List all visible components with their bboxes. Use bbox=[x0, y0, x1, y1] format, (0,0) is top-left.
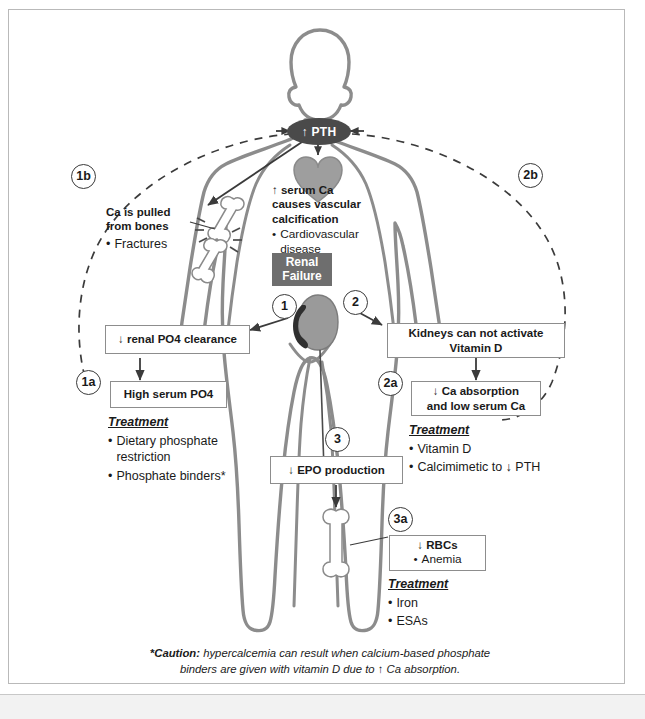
marker-1a: 1a bbox=[76, 370, 101, 395]
box-ca-absorption-line2: and low serum Ca bbox=[427, 399, 525, 413]
bullet-dot: • bbox=[108, 468, 112, 484]
renal-failure-line2: Failure bbox=[282, 270, 321, 284]
treatment-3a-label: Treatment bbox=[388, 577, 538, 592]
renal-failure-badge: Renal Failure bbox=[272, 253, 332, 286]
bullet-dot: • bbox=[388, 613, 392, 629]
heart-heading-line3: calcification bbox=[272, 212, 368, 226]
caption-line2: binders are given with vitamin D due to … bbox=[180, 663, 460, 675]
treatment-1a-item-1: Dietary phosphate restriction bbox=[116, 433, 253, 466]
bone-heading-line2: from bones bbox=[106, 219, 202, 233]
box-high-serum-po4: High serum PO4 bbox=[110, 381, 227, 408]
treatment-2a-item-2: Calcimimetic to ↓ PTH bbox=[417, 459, 540, 475]
marker-2: 2 bbox=[343, 290, 368, 315]
bullet-dot: • bbox=[413, 552, 417, 567]
diagram-graphics bbox=[0, 0, 645, 719]
caption-line1: hypercalcemia can result when calcium-ba… bbox=[203, 647, 490, 659]
box-ca-absorption: ↓ Ca absorption and low serum Ca bbox=[411, 381, 541, 416]
caption-strong: *Caution: bbox=[150, 647, 200, 659]
treatment-1a-label: Treatment bbox=[108, 415, 253, 430]
marker-2a: 2a bbox=[378, 371, 403, 396]
box-epo-production: ↓ EPO production bbox=[270, 456, 403, 484]
bone-text-block: Ca is pulled from bones • Fractures bbox=[106, 205, 202, 252]
box-ca-absorption-line1: ↓ Ca absorption bbox=[433, 384, 519, 398]
heart-heading-line1: ↑ serum Ca bbox=[272, 183, 368, 197]
marker-2b: 2b bbox=[518, 163, 543, 188]
marker-3: 3 bbox=[325, 427, 350, 452]
treatment-3a: Treatment • Iron • ESAs bbox=[388, 577, 538, 630]
treatment-1a: Treatment • Dietary phosphate restrictio… bbox=[108, 415, 253, 484]
bone-heading-line1: Ca is pulled bbox=[106, 205, 202, 219]
heart-text-block: ↑ serum Ca causes vascular calcification… bbox=[272, 183, 368, 258]
box-kidneys-vitamin-d-line2: Vitamin D bbox=[450, 341, 503, 355]
treatment-3a-items: • Iron • ESAs bbox=[388, 595, 538, 630]
bullet-dot: • bbox=[409, 459, 413, 475]
treatment-1a-items: • Dietary phosphate restriction • Phosph… bbox=[108, 433, 253, 484]
box-rbcs-line1: ↓ RBCs bbox=[417, 538, 457, 552]
box-kidneys-vitamin-d-line1: Kidneys can not activate bbox=[409, 326, 544, 340]
marker-1b: 1b bbox=[71, 164, 96, 189]
box-rbcs-bullet-1: Anemia bbox=[422, 552, 462, 567]
treatment-3a-item-2: ESAs bbox=[396, 613, 427, 629]
treatment-2a-label: Treatment bbox=[409, 423, 609, 438]
treatment-2a-item-1: Vitamin D bbox=[417, 441, 471, 457]
bullet-dot: • bbox=[388, 595, 392, 611]
box-rbcs-bullets: • Anemia bbox=[413, 552, 461, 567]
diagram-page: ↑ PTH 1b 2b Ca is pulled from bones • Fr… bbox=[0, 0, 645, 719]
bullet-dot: • bbox=[108, 433, 112, 466]
box-renal-po4-clearance: ↓ renal PO4 clearance bbox=[105, 325, 250, 354]
caption: *Caution: hypercalcemia can result when … bbox=[70, 645, 570, 677]
marker-3a: 3a bbox=[388, 507, 413, 532]
treatment-2a: Treatment • Vitamin D • Calcimimetic to … bbox=[409, 423, 609, 476]
marker-1: 1 bbox=[272, 294, 297, 319]
pth-node: ↑ PTH bbox=[287, 118, 351, 145]
pth-label: ↑ PTH bbox=[302, 125, 337, 139]
bone-bullet-1: Fractures bbox=[114, 236, 167, 252]
treatment-2a-items: • Vitamin D • Calcimimetic to ↓ PTH bbox=[409, 441, 609, 476]
box-rbcs: ↓ RBCs • Anemia bbox=[389, 535, 486, 571]
renal-failure-line1: Renal bbox=[282, 256, 321, 270]
bullet-dot: • bbox=[409, 441, 413, 457]
bone-bullets: • Fractures bbox=[106, 236, 202, 252]
treatment-3a-item-1: Iron bbox=[396, 595, 418, 611]
heart-heading-line2: causes vascular bbox=[272, 197, 368, 211]
bullet-dot: • bbox=[106, 236, 110, 252]
treatment-1a-item-2: Phosphate binders* bbox=[116, 468, 225, 484]
box-kidneys-vitamin-d: Kidneys can not activate Vitamin D bbox=[387, 323, 565, 358]
